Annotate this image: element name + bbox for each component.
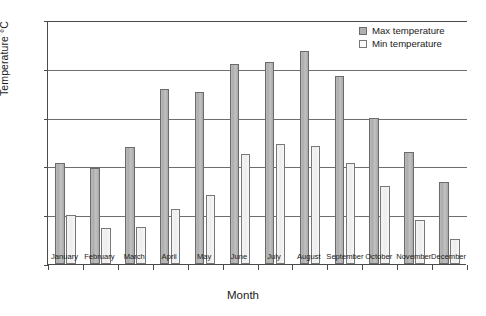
bar-july-max (265, 62, 275, 264)
x-tick-label-february: February (82, 252, 117, 261)
bar-march-max (125, 147, 135, 264)
legend-label: Min temperature (372, 38, 442, 49)
x-axis-title: Month (0, 289, 486, 301)
x-tick-mark-11 (432, 265, 433, 270)
x-tick-label-april: April (152, 252, 187, 261)
gridline-25 (48, 21, 467, 22)
legend-label: Max temperature (372, 25, 445, 36)
x-tick-mark-0 (48, 265, 49, 270)
bar-april-max (160, 89, 170, 264)
y-axis-title: Temperature °C (0, 21, 10, 96)
x-tick-label-march: March (117, 252, 152, 261)
bar-february-max (90, 168, 100, 264)
x-tick-mark-8 (327, 265, 328, 270)
bar-september-min (346, 163, 356, 265)
bar-september-max (335, 76, 345, 264)
x-tick-label-may: May (187, 252, 222, 261)
bar-august-min (311, 146, 321, 264)
gridline-20 (48, 70, 467, 71)
x-tick-label-august: August (291, 252, 326, 261)
bar-january-max (55, 163, 65, 264)
y-tick-mark-10 (44, 167, 48, 168)
legend-swatch-min-icon (359, 40, 367, 48)
x-tick-mark-end (467, 265, 468, 270)
x-tick-mark-7 (292, 265, 293, 270)
x-tick-label-july: July (257, 252, 292, 261)
y-tick-mark-15 (44, 119, 48, 120)
x-tick-label-december: December (431, 252, 466, 261)
bar-october-max (369, 118, 379, 264)
bar-june-min (241, 154, 251, 264)
temperature-bar-chart: Temperature °C 0510152025 Max temperatur… (0, 0, 486, 316)
legend-item-min[interactable]: Min temperature (359, 38, 445, 49)
x-tick-mark-9 (362, 265, 363, 270)
x-tick-mark-5 (223, 265, 224, 270)
y-tick-mark-25 (44, 21, 48, 22)
bar-may-max (195, 92, 205, 264)
x-tick-mark-6 (258, 265, 259, 270)
bar-july-min (276, 144, 286, 264)
bar-november-max (404, 152, 414, 264)
x-tick-label-june: June (222, 252, 257, 261)
x-tick-mark-1 (83, 265, 84, 270)
x-tick-label-october: October (361, 252, 396, 261)
y-tick-mark-20 (44, 70, 48, 71)
x-tick-mark-3 (153, 265, 154, 270)
x-tick-label-september: September (326, 252, 361, 261)
x-tick-mark-2 (118, 265, 119, 270)
bar-august-max (300, 51, 310, 264)
bar-june-max (230, 64, 240, 264)
x-tick-mark-4 (188, 265, 189, 270)
legend-item-max[interactable]: Max temperature (359, 25, 445, 36)
x-tick-mark-10 (397, 265, 398, 270)
gridline-15 (48, 119, 467, 120)
legend-swatch-max-icon (359, 27, 367, 35)
plot-area: 0510152025 (47, 21, 466, 265)
x-tick-label-november: November (396, 252, 431, 261)
y-tick-mark-5 (44, 216, 48, 217)
chart-legend: Max temperatureMin temperature (359, 25, 445, 49)
x-tick-label-january: January (47, 252, 82, 261)
